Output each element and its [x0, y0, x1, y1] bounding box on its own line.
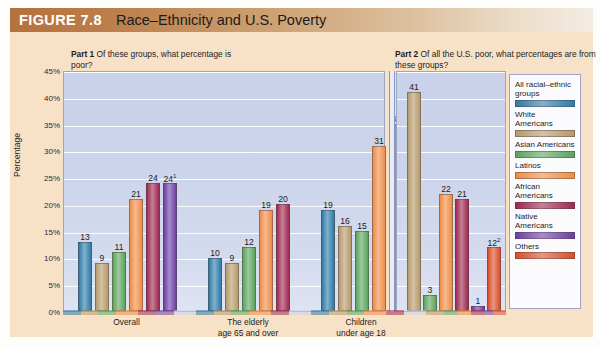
bar-value-label: 15 — [357, 221, 367, 231]
bar — [112, 252, 126, 311]
bar-value-label: 24 — [148, 173, 158, 183]
bar — [259, 210, 273, 311]
gridline — [64, 99, 384, 100]
part2-caption-text: Of all the U.S. poor, what percentages a… — [395, 49, 596, 70]
bar-value-label: 19 — [323, 200, 333, 210]
legend-item-label: All racial–ethnic groups — [515, 80, 575, 99]
legend-item: White Americans — [515, 110, 575, 137]
gridline — [64, 72, 384, 73]
legend-item: Native Americans — [515, 212, 575, 239]
gridline — [64, 233, 384, 234]
y-tick-label: 0% — [48, 308, 60, 317]
legend-item-label: Latinos — [515, 161, 575, 170]
figure-number: FIGURE 7.8 — [19, 12, 102, 28]
bar — [372, 146, 386, 311]
part1-caption-label: Part 1 — [71, 49, 94, 59]
y-tick-label: 40% — [44, 93, 60, 102]
x-axis-group-label: Childrenunder age 18 — [336, 317, 385, 339]
x-axis-group-label: Overall — [113, 317, 140, 328]
bar-value-label: 31 — [374, 136, 384, 146]
gridline — [64, 206, 384, 207]
bar — [95, 263, 109, 311]
part2-plot-area: 41322211122 — [396, 71, 506, 312]
legend-item-label: Native Americans — [515, 212, 575, 231]
part1-caption-text: Of these groups, what percentage is poor… — [71, 49, 231, 70]
bar — [439, 194, 453, 311]
figure-container: FIGURE 7.8 Race–Ethnicity and U.S. Pover… — [0, 0, 600, 349]
legend-swatch — [515, 252, 575, 259]
x-axis-color-band — [63, 310, 506, 315]
bar — [242, 247, 256, 311]
y-tick-label: 5% — [48, 281, 60, 290]
bar-value-label: 21 — [457, 189, 467, 199]
bar — [355, 231, 369, 311]
legend-item: All racial–ethnic groups — [515, 80, 575, 107]
chart-legend: All racial–ethnic groupsWhite AmericansA… — [509, 74, 581, 309]
bar — [146, 183, 160, 311]
legend-swatch — [515, 130, 575, 137]
bar-value-label: 9 — [230, 253, 235, 263]
y-tick-label: 45% — [44, 67, 60, 76]
bar-value-label: 22 — [441, 184, 451, 194]
bar-value-label: 9 — [100, 253, 105, 263]
y-axis-ticks: 0%5%10%15%20%25%30%35%40%45% — [24, 66, 60, 318]
bar-value-label: 19 — [261, 200, 271, 210]
y-tick-label: 30% — [44, 147, 60, 156]
part2-caption-label: Part 2 — [395, 49, 418, 59]
figure-title: Race–Ethnicity and U.S. Poverty — [116, 12, 326, 28]
bar — [455, 199, 469, 311]
legend-item: African Americans — [515, 182, 575, 209]
y-tick-label: 35% — [44, 120, 60, 129]
x-axis-group-label: The elderlyage 65 and over — [218, 317, 279, 339]
bar-value-label: 12 — [244, 237, 254, 247]
gridline — [64, 152, 384, 153]
legend-swatch — [515, 202, 575, 209]
legend-item: Latinos — [515, 161, 575, 179]
bar — [163, 183, 177, 311]
legend-swatch — [515, 232, 575, 239]
bar — [276, 204, 290, 311]
bar — [225, 263, 239, 311]
gridline — [64, 126, 384, 127]
bar-value-label: 41 — [409, 82, 419, 92]
part2-caption: Part 2 Of all the U.S. poor, what percen… — [395, 49, 600, 71]
bar-value-label: 10 — [210, 248, 220, 258]
bar — [321, 210, 335, 311]
bar-value-label: 241 — [164, 173, 177, 184]
bar-value-label: 20 — [278, 194, 288, 204]
bar-value-label: 21 — [131, 189, 141, 199]
bar — [407, 92, 421, 311]
bar — [78, 242, 92, 311]
bar-value-label: 122 — [488, 237, 501, 248]
legend-item: Asian Americans — [515, 140, 575, 158]
gridline — [397, 72, 505, 73]
legend-item-label: African Americans — [515, 182, 575, 201]
legend-swatch — [515, 151, 575, 158]
bar-value-label: 11 — [115, 242, 124, 252]
bar — [208, 258, 222, 311]
legend-swatch — [515, 172, 575, 179]
legend-item-label: Others — [515, 242, 575, 251]
y-axis-title: Percentage — [12, 110, 22, 200]
legend-item-label: White Americans — [515, 110, 575, 129]
bar-value-label: 13 — [80, 232, 90, 242]
part1-plot-area: 1391121242411091219201916153135 — [63, 71, 385, 312]
bar-value-label: 1 — [476, 296, 481, 306]
y-tick-label: 10% — [44, 254, 60, 263]
bar — [423, 295, 437, 311]
gridline — [64, 179, 384, 180]
y-tick-label: 20% — [44, 200, 60, 209]
bar — [129, 199, 143, 311]
panel-divider — [389, 71, 395, 312]
y-tick-label: 15% — [44, 227, 60, 236]
bar — [338, 226, 352, 311]
bar-value-label: 16 — [340, 216, 350, 226]
bar-value-label: 3 — [428, 285, 433, 295]
legend-swatch — [515, 100, 575, 107]
part1-caption: Part 1 Of these groups, what percentage … — [71, 49, 251, 71]
y-tick-label: 25% — [44, 174, 60, 183]
legend-item: Others — [515, 242, 575, 260]
bar — [487, 247, 501, 311]
figure-header-band: FIGURE 7.8 Race–Ethnicity and U.S. Pover… — [10, 8, 593, 32]
legend-item-label: Asian Americans — [515, 140, 575, 149]
